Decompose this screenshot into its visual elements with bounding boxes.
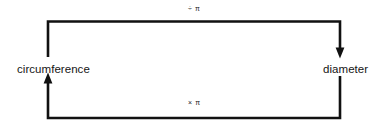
edge-bottom-diameter-to-circumference: [44, 73, 340, 119]
node-label-diameter: diameter: [323, 63, 368, 75]
edge-bottom-line: [48, 76, 340, 118]
edge-top-circumference-to-diameter: [48, 22, 344, 59]
cycle-diagram: circumference diameter ÷ π × π: [0, 0, 387, 132]
edge-label-divide-pi: ÷ π: [188, 5, 200, 12]
node-label-circumference: circumference: [17, 63, 90, 75]
arrowhead-down-icon: [336, 48, 345, 59]
edge-label-multiply-pi: × π: [188, 99, 201, 106]
edge-top-line: [48, 22, 340, 58]
